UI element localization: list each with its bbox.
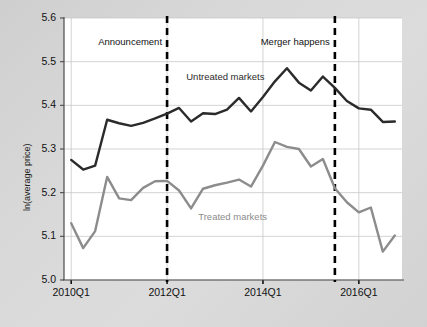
series-label-untreated: Untreated markets <box>186 71 264 82</box>
series-label-treated: Treated markets <box>198 211 267 222</box>
y-tick-label: 5.0 <box>16 273 56 285</box>
y-tick-label: 5.5 <box>16 55 56 67</box>
chart-figure: ln(average price) 5.05.15.25.35.45.55.6 … <box>8 6 419 317</box>
x-tick-label: 2014Q1 <box>244 286 281 298</box>
x-tick-label: 2010Q1 <box>53 286 90 298</box>
y-tick-label: 5.4 <box>16 98 56 110</box>
x-tick-label: 2016Q1 <box>340 286 377 298</box>
annotation-label-announcement: Announcement <box>98 36 162 47</box>
grid-lines <box>64 18 402 280</box>
data-series <box>71 68 395 251</box>
chart-screenshot: ln(average price) 5.05.15.25.35.45.55.6 … <box>0 0 427 327</box>
annotation-label-merger: Merger happens <box>261 36 330 47</box>
chart-canvas <box>8 6 419 317</box>
x-tick-label: 2012Q1 <box>148 286 185 298</box>
y-tick-label: 5.1 <box>16 229 56 241</box>
y-tick-label: 5.2 <box>16 186 56 198</box>
y-tick-label: 5.3 <box>16 142 56 154</box>
axis-lines <box>63 17 404 280</box>
y-tick-label: 5.6 <box>16 11 56 23</box>
